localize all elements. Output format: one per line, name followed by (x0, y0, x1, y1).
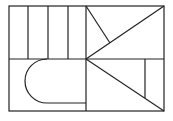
upper-short-diagonal-line (86, 6, 110, 43)
lower-diagonal-line (86, 59, 164, 111)
line-diagram (0, 0, 173, 121)
d-shape (25, 59, 86, 103)
interior-lines (9, 6, 164, 111)
upper-diagonal-line (86, 6, 164, 59)
